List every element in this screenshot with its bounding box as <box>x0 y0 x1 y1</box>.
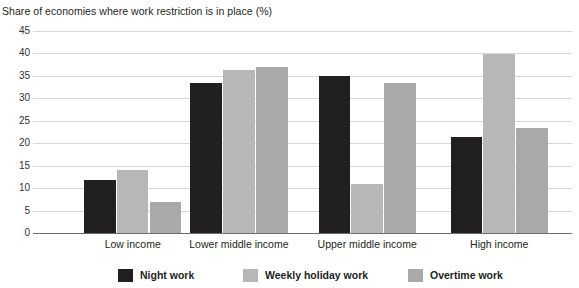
legend-swatch-icon <box>118 269 133 282</box>
y-axis-tick-label: 15 <box>19 161 30 171</box>
x-axis-category-label: Lower middle income <box>189 238 288 250</box>
legend-label: Night work <box>140 269 194 281</box>
x-axis-category-label: High income <box>470 238 528 250</box>
bar <box>384 83 416 233</box>
bar <box>516 128 548 233</box>
y-axis-tick-label: 40 <box>19 48 30 58</box>
bar <box>150 202 182 233</box>
y-axis-tick-label: 0 <box>24 228 30 238</box>
legend-label: Weekly holiday work <box>265 269 368 281</box>
axis-baseline <box>33 233 572 234</box>
x-axis-category-labels: Low incomeLower middle incomeUpper middl… <box>33 238 572 254</box>
chart-title: Share of economies where work restrictio… <box>2 5 272 17</box>
x-axis-category-label: Upper middle income <box>318 238 417 250</box>
y-axis-tick-label: 20 <box>19 138 30 148</box>
y-axis-tick-label: 30 <box>19 93 30 103</box>
y-axis-labels: 051015202530354045 <box>0 31 30 233</box>
bar <box>451 137 483 234</box>
y-axis-tick-label: 45 <box>19 26 30 36</box>
legend-item[interactable]: Night work <box>118 266 194 284</box>
legend-item[interactable]: Weekly holiday work <box>243 266 368 284</box>
legend-swatch-icon <box>408 269 423 282</box>
legend-swatch-icon <box>243 269 258 282</box>
bar <box>84 180 116 233</box>
bar <box>223 70 255 233</box>
plot-area <box>33 31 572 233</box>
bar <box>483 54 515 233</box>
bar <box>117 170 149 233</box>
y-axis-tick-label: 5 <box>24 206 30 216</box>
bar-series-container <box>33 31 572 233</box>
y-axis-tick-label: 35 <box>19 71 30 81</box>
bar <box>190 83 222 233</box>
bar <box>319 76 351 233</box>
y-axis-tick-label: 25 <box>19 116 30 126</box>
chart-legend: Night workWeekly holiday workOvertime wo… <box>0 266 579 286</box>
y-axis-tick-label: 10 <box>19 183 30 193</box>
bar-chart: Share of economies where work restrictio… <box>0 0 579 288</box>
legend-item[interactable]: Overtime work <box>408 266 503 284</box>
bar <box>256 67 288 233</box>
bar <box>351 184 383 233</box>
x-axis-category-label: Low income <box>105 238 161 250</box>
legend-label: Overtime work <box>430 269 503 281</box>
